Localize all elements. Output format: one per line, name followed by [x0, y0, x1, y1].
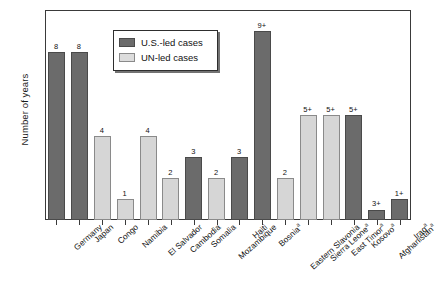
footnote-marker: a: [295, 221, 301, 228]
bar-value-label: 8: [64, 42, 94, 51]
bar-slot: 3: [228, 10, 251, 220]
bar-slot: 9+: [251, 10, 274, 220]
footnote-marker: a: [421, 221, 427, 228]
bar-slot: 1+: [388, 10, 411, 220]
footnote-marker: a: [363, 221, 369, 228]
legend-swatch-icon-us-led: [119, 38, 135, 47]
footnote-marker: a: [389, 221, 395, 228]
bar[interactable]: [368, 210, 385, 221]
bar[interactable]: [117, 199, 134, 220]
y-axis-title: Number of years: [19, 40, 30, 180]
bar[interactable]: [277, 178, 294, 220]
legend-item-un-led: UN-led cases: [119, 50, 212, 65]
bar[interactable]: [300, 115, 317, 220]
bar-value-label: 2: [270, 168, 300, 177]
bar[interactable]: [254, 31, 271, 220]
bar-value-label: 5+: [338, 105, 368, 114]
bar-value-label: 4: [87, 126, 117, 135]
chart-legend: U.S.-led cases UN-led cases: [113, 30, 218, 71]
legend-item-us-led: U.S.-led cases: [119, 35, 212, 50]
bar[interactable]: [208, 178, 225, 220]
bar-slot: 5+: [297, 10, 320, 220]
bar-slot: 5+: [320, 10, 343, 220]
bar[interactable]: [185, 157, 202, 220]
bar[interactable]: [94, 136, 111, 220]
bar[interactable]: [391, 199, 408, 220]
bar[interactable]: [48, 52, 65, 220]
bar[interactable]: [231, 157, 248, 220]
bar-value-label: 1+: [384, 189, 414, 198]
bar[interactable]: [71, 52, 88, 220]
bar-slot: 8: [68, 10, 91, 220]
bar-slot: 2: [274, 10, 297, 220]
bar[interactable]: [323, 115, 340, 220]
bar-value-label: 1: [110, 189, 140, 198]
bar-value-label: 4: [133, 126, 163, 135]
bar-value-label: 2: [155, 168, 185, 177]
bar-slot: 5+: [342, 10, 365, 220]
x-axis-label: Congo: [115, 222, 140, 246]
footnote-marker: a: [378, 221, 384, 228]
bar-value-label: 3: [224, 147, 254, 156]
bar[interactable]: [345, 115, 362, 220]
bar-value-label: 9+: [247, 21, 277, 30]
bars-layer: 8841423239+25+5+5+3+1+: [45, 10, 411, 220]
bar[interactable]: [162, 178, 179, 220]
x-axis-label: Namibia: [140, 222, 169, 250]
legend-swatch-icon-un-led: [119, 53, 135, 62]
bar-value-label: 2: [201, 168, 231, 177]
bar-value-label: 3: [178, 147, 208, 156]
legend-label-us-led: U.S.-led cases: [141, 37, 203, 48]
x-axis-label: Bosniaa: [277, 222, 305, 249]
bar[interactable]: [140, 136, 157, 220]
bar-value-label: 3+: [361, 199, 391, 208]
x-axis-labels: GermanyJapanCongoNamibiaEl SalvadorCambo…: [45, 222, 411, 291]
legend-label-un-led: UN-led cases: [141, 52, 198, 63]
